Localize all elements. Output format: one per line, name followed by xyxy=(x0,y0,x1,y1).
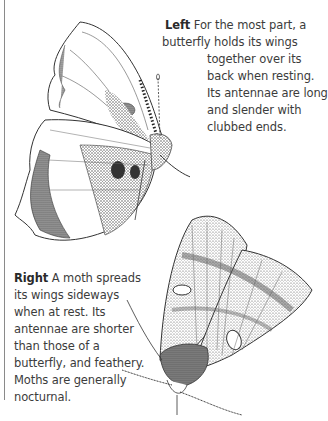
caption-line: when at rest. Its xyxy=(14,304,144,321)
caption-line: together over its xyxy=(207,51,328,68)
caption-line: butterfly holds its wings xyxy=(162,34,328,51)
moth-illustration xyxy=(122,180,322,420)
margin-rule xyxy=(4,0,5,400)
caption-line: clubbed ends. xyxy=(207,119,328,136)
caption-line: A moth spreads xyxy=(48,271,141,285)
caption-left-label: Left xyxy=(165,18,190,32)
caption-right: Right A moth spreads its wings sideways … xyxy=(14,270,144,406)
caption-line: For the most part, a xyxy=(190,18,306,32)
caption-line: and slender with xyxy=(207,102,328,119)
caption-line: butterfly, and feathery. xyxy=(14,355,144,372)
caption-line: than those of a xyxy=(14,338,144,355)
caption-left: Left For the most part, a butterfly hold… xyxy=(165,17,328,136)
caption-line: Its antennae are long xyxy=(207,85,328,102)
caption-line: its wings sideways xyxy=(14,287,144,304)
caption-line: Moths are generally xyxy=(14,372,144,389)
caption-line: nocturnal. xyxy=(14,389,144,406)
caption-line: back when resting. xyxy=(207,68,328,85)
caption-right-label: Right xyxy=(14,271,48,285)
caption-line: antennae are shorter xyxy=(14,321,144,338)
